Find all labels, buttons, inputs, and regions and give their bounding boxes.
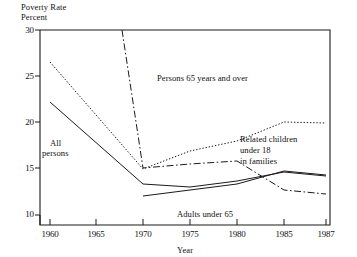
annotation-related-children-line2: under 18 [240,146,271,156]
plot-frame [40,30,330,225]
annotation-related-children-line3: in families [240,157,277,167]
chart-figure: Poverty RatePercent Year 30 25 20 15 10 … [0,0,357,257]
y-tick-marks [35,30,40,215]
annotation-related-children-line1: Related children [240,135,297,145]
annotation-all-persons-line2: persons [42,149,69,159]
series-line-adults-under-65 [143,171,326,196]
series-line-persons-65-and-over [122,30,326,194]
x-tick-marks [50,219,326,225]
annotation-persons-65-and-over: Persons 65 years and over [157,74,248,84]
annotation-adults-under-65: Adults under 65 [177,210,233,220]
